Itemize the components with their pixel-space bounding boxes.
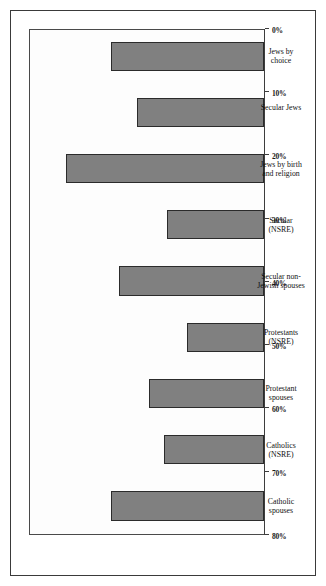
bar-slot <box>30 309 264 365</box>
chart-rotation-wrapper: 80%70%60%50%40%30%20%10%0% Catholic spou… <box>11 11 317 577</box>
bar <box>111 42 264 71</box>
axis-tick-mark <box>265 155 269 156</box>
bars-container <box>30 30 264 534</box>
category-label: Protestants (NSRE) <box>244 328 318 348</box>
plot-area <box>29 29 265 535</box>
axis-tick-mark <box>265 408 269 409</box>
axis-tick-label: 70% <box>272 469 286 478</box>
axis-tick-mark <box>265 28 269 29</box>
figure-outer-frame: 80%70%60%50%40%30%20%10%0% Catholic spou… <box>10 10 316 576</box>
bar <box>119 266 264 295</box>
axis-tick-label: 80% <box>272 532 286 541</box>
category-label: Jews by birth and religion <box>244 160 318 180</box>
bar-slot <box>30 365 264 421</box>
category-label: Secular non- Jewish spouses <box>244 272 318 292</box>
axis-tick-label: 60% <box>272 406 286 415</box>
axis-tick-mark <box>265 91 269 92</box>
bar-slot <box>30 253 264 309</box>
axis-tick-label: 10% <box>272 89 286 98</box>
category-label: Secular Jews <box>244 103 318 123</box>
bar <box>66 154 264 183</box>
bar <box>111 491 264 520</box>
bar-slot <box>30 478 264 534</box>
category-label: Catholics (NSRE) <box>244 441 318 461</box>
bar-chart: 80%70%60%50%40%30%20%10%0% Catholic spou… <box>11 11 317 577</box>
bar-slot <box>30 28 264 84</box>
bar-slot <box>30 422 264 478</box>
category-label: Catholic spouses <box>244 497 318 517</box>
bar-slot <box>30 197 264 253</box>
axis-tick-mark <box>265 471 269 472</box>
category-label: Jews by choice <box>244 47 318 67</box>
bar-slot <box>30 140 264 196</box>
axis-tick-label: 0% <box>272 26 283 35</box>
bar-slot <box>30 84 264 140</box>
category-label: Secular (NSRE) <box>244 216 318 236</box>
axis-tick-mark <box>265 534 269 535</box>
category-label: Protestant spouses <box>244 384 318 404</box>
